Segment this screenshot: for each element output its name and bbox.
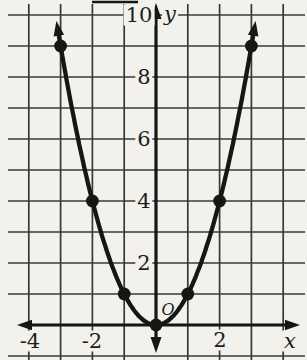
data-point: [150, 319, 163, 332]
data-point: [54, 40, 67, 53]
x-tick-label-2: 2: [211, 330, 228, 351]
data-point: [181, 288, 194, 301]
y-axis-bottom-arrow: [151, 337, 162, 353]
x-axis-label: x: [282, 331, 298, 352]
graph-canvas: [0, 0, 307, 360]
y-axis-label: y: [162, 4, 178, 25]
origin-label: O: [161, 302, 174, 318]
y-tick-label-10: 10: [124, 5, 155, 26]
curve-right-arrow: [248, 21, 258, 37]
data-point: [118, 288, 131, 301]
curve-left-arrow: [54, 21, 64, 37]
data-point: [213, 195, 226, 208]
y-tick-label-2: 2: [135, 253, 152, 274]
y-tick-label-8: 8: [135, 67, 152, 88]
x-tick-label-neg4: -4: [18, 331, 42, 352]
x-tick-label-neg2: -2: [80, 331, 104, 352]
data-point: [245, 40, 258, 53]
data-point: [86, 195, 99, 208]
graph-figure: 10 8 6 4 2 -4 -2 2 y x O: [0, 0, 307, 360]
y-tick-label-4: 4: [135, 191, 152, 212]
y-tick-label-6: 6: [135, 129, 152, 150]
